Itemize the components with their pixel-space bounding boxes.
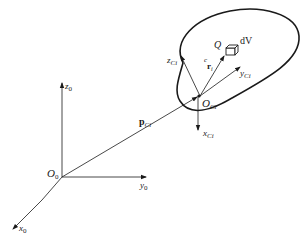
- rigid-body-outline: [177, 9, 299, 110]
- frames-diagram: [0, 0, 306, 248]
- x-ci-label: xCi: [203, 129, 214, 140]
- y0-label: y0: [140, 181, 148, 192]
- y-ci-axis: [200, 67, 240, 96]
- dv-label: dV: [240, 36, 252, 46]
- dv-cube-icon: [226, 45, 238, 55]
- r-i-label: ri: [207, 62, 213, 72]
- origin-ci-dot: [197, 94, 200, 97]
- p-ci-vector: [62, 97, 197, 177]
- z-ci-axis: [181, 56, 200, 96]
- y-ci-label: yCi: [240, 69, 251, 80]
- x0-label: x0: [19, 224, 27, 235]
- z0-label: z0: [65, 82, 72, 93]
- z-ci-label: zCi: [167, 56, 177, 67]
- o-ci-label: OCi: [202, 98, 217, 111]
- p-ci-label: pCi: [139, 117, 151, 129]
- q-point-label: Q: [214, 40, 221, 50]
- o0-label: O0: [47, 168, 58, 181]
- x0-axis: [13, 177, 62, 229]
